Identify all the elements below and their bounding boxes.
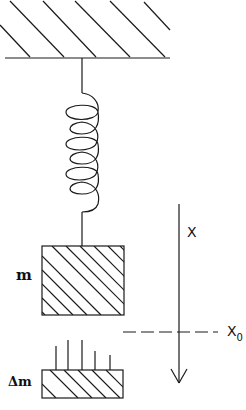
- equilibrium-label-subscript: 0: [237, 332, 243, 343]
- equilibrium-label-main: X: [227, 323, 237, 339]
- spring-mass-diagram: [0, 0, 246, 410]
- added-mass-label: Δm: [8, 374, 32, 389]
- equilibrium-label: X0: [227, 323, 243, 339]
- added-mass-block: [42, 340, 134, 398]
- mass-label: m: [16, 266, 32, 284]
- x-axis-arrow: [171, 204, 187, 383]
- ceiling-hatch: [0, 1, 170, 57]
- mass-block: [42, 246, 189, 315]
- x-axis-label: X: [187, 224, 197, 240]
- spring-coil: [66, 93, 99, 212]
